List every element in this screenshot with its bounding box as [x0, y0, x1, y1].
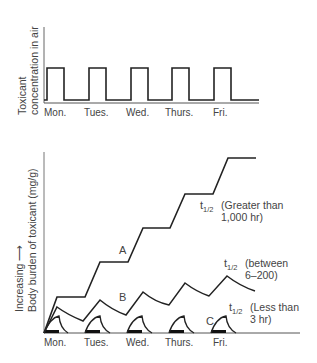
bottom-ylabel-line1: Increasing ⟶ [13, 245, 25, 312]
svg-text:(Greater than: (Greater than [221, 199, 284, 211]
bottom-tick-wed: Wed. [126, 337, 149, 348]
annotation-b: t1/2 (between 6–200) [224, 257, 288, 281]
annotation-a: t1/2 (Greater than 1,000 hr) [200, 199, 284, 223]
svg-text:t1/2: t1/2 [229, 301, 243, 316]
curve-a [44, 158, 256, 333]
top-tick-tues: Tues. [84, 107, 109, 118]
top-tick-thurs: Thurs. [165, 107, 193, 118]
bottom-ylabel-line2: Body burden of toxicant (mg/g) [26, 168, 38, 312]
bottom-tick-tues: Tues. [84, 337, 109, 348]
annotation-c: t1/2 (Less than 3 hr) [229, 301, 299, 325]
curve-a-label: A [119, 244, 127, 256]
svg-text:3 hr): 3 hr) [250, 313, 272, 325]
bottom-tick-fri: Fri. [213, 337, 227, 348]
curve-b [44, 276, 255, 333]
svg-text:t1/2: t1/2 [224, 257, 238, 272]
svg-text:(between: (between [245, 257, 288, 269]
top-tick-wed: Wed. [126, 107, 149, 118]
top-tick-mon: Mon. [44, 107, 66, 118]
top-ylabel-line2: concentration in air [28, 26, 40, 115]
figure: Toxicant concentration in air Mon. Tues.… [0, 0, 317, 363]
bottom-tick-thurs: Thurs. [165, 337, 193, 348]
bottom-tick-mon: Mon. [44, 337, 66, 348]
bottom-chart: Increasing ⟶ Body burden of toxicant (mg… [13, 152, 300, 348]
top-tick-fri: Fri. [213, 107, 227, 118]
svg-text:t1/2: t1/2 [200, 199, 214, 214]
top-ylabel-line1: Toxicant [16, 76, 28, 115]
svg-text:1,000 hr): 1,000 hr) [221, 211, 263, 223]
top-chart: Toxicant concentration in air Mon. Tues.… [16, 26, 259, 118]
curve-b-label: B [119, 291, 126, 303]
air-concentration-line [44, 68, 259, 100]
svg-text:6–200): 6–200) [245, 269, 278, 281]
curve-c-label: C [206, 315, 214, 327]
svg-text:(Less than: (Less than [250, 301, 299, 313]
